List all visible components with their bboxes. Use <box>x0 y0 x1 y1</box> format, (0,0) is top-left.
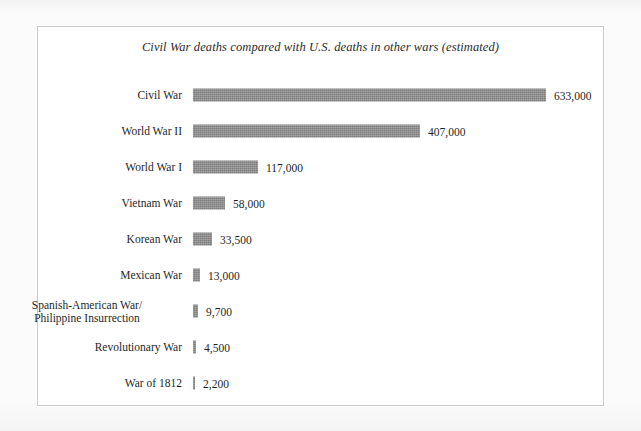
bar-value-label: 4,500 <box>204 341 230 353</box>
bar-value-label: 9,700 <box>206 305 232 317</box>
bar-value-label: 407,000 <box>428 125 465 137</box>
bar <box>193 89 546 102</box>
bar-track: 58,000 <box>193 197 597 210</box>
bar-track: 33,500 <box>193 233 597 246</box>
bar-row: Korean War33,500 <box>38 221 603 257</box>
bar-row: World War I117,000 <box>38 149 603 185</box>
bar <box>193 341 196 354</box>
bar <box>193 197 225 210</box>
bar-category-label: Mexican War <box>0 269 182 282</box>
bar <box>193 305 198 318</box>
bar <box>193 125 420 138</box>
chart-title: Civil War deaths compared with U.S. deat… <box>38 40 603 55</box>
bar <box>193 377 195 390</box>
bar-row: War of 18122,200 <box>38 365 603 401</box>
bar <box>193 161 258 174</box>
bar-category-label: Vietnam War <box>0 197 182 210</box>
bar-chart-plot-area: Civil War633,000World War II407,000World… <box>38 71 603 405</box>
bar-row: Vietnam War58,000 <box>38 185 603 221</box>
bar-track: 2,200 <box>193 377 597 390</box>
bar-value-label: 2,200 <box>203 377 229 389</box>
figure-frame: Civil War deaths compared with U.S. deat… <box>37 26 604 406</box>
bar-value-label: 633,000 <box>554 89 591 101</box>
bar-category-label: War of 1812 <box>0 377 182 390</box>
bar-row: Mexican War13,000 <box>38 257 603 293</box>
bar-track: 407,000 <box>193 125 597 138</box>
bar-category-label: Civil War <box>0 89 182 102</box>
bar-value-label: 117,000 <box>266 161 303 173</box>
bar-category-label: Revolutionary War <box>0 341 182 354</box>
bar-value-label: 58,000 <box>233 197 265 209</box>
bar-category-label: Spanish-American War/ Philippine Insurre… <box>0 299 182 324</box>
bar-track: 633,000 <box>193 89 597 102</box>
bar <box>193 269 200 282</box>
bar-row: Revolutionary War4,500 <box>38 329 603 365</box>
bar-row: World War II407,000 <box>38 113 603 149</box>
bar-track: 9,700 <box>193 305 597 318</box>
bar-value-label: 33,500 <box>220 233 252 245</box>
bar-track: 117,000 <box>193 161 597 174</box>
bar-row: Civil War633,000 <box>38 77 603 113</box>
bar-track: 13,000 <box>193 269 597 282</box>
bar-category-label: World War I <box>0 161 182 174</box>
bar-track: 4,500 <box>193 341 597 354</box>
bar-category-label: Korean War <box>0 233 182 246</box>
bar-value-label: 13,000 <box>208 269 240 281</box>
bar-row: Spanish-American War/ Philippine Insurre… <box>38 293 603 329</box>
bar-category-label: World War II <box>0 125 182 138</box>
bar <box>193 233 212 246</box>
